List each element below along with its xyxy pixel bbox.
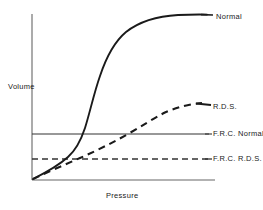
x-axis-label: Pressure — [106, 192, 138, 200]
rds-label-leader — [196, 104, 211, 106]
frc-rds-label: F.R.C. R.D.S. — [213, 155, 262, 163]
normal-curve — [33, 15, 207, 179]
frc-normal-label: F.R.C. Normal — [213, 130, 263, 138]
rds-curve — [33, 103, 202, 179]
rds-curve-label: R.D.S. — [213, 103, 237, 111]
pressure-volume-chart: Volume Pressure Normal R.D.S. F.R.C. Nor… — [0, 0, 263, 210]
y-axis-label: Volume — [8, 83, 35, 91]
normal-curve-label: Normal — [216, 13, 242, 21]
